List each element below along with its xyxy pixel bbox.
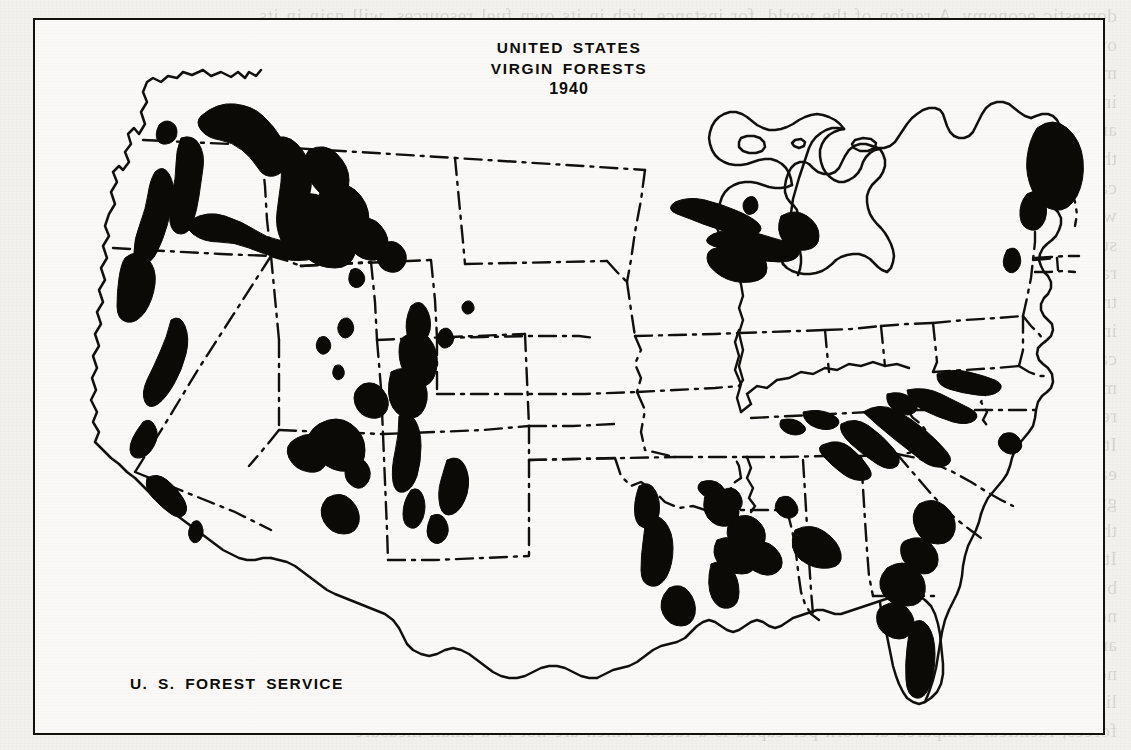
us-virgin-forests-map [35,20,1105,735]
map-year: 1940 [35,79,1103,100]
map-frame: UNITED STATES VIRGIN FORESTS 1940 U. S. … [33,18,1105,735]
map-title-line-1: UNITED STATES [35,38,1103,59]
scanned-page: domestic economy. A region of the world,… [0,0,1131,750]
virgin-forest-areas [117,104,1083,699]
agency-name: U. S. FOREST SERVICE [130,675,344,693]
agency-credit-block: U. S. FOREST SERVICE [130,675,344,693]
map-title-line-2: VIRGIN FORESTS [35,59,1103,80]
map-title-block: UNITED STATES VIRGIN FORESTS 1940 [35,38,1103,100]
